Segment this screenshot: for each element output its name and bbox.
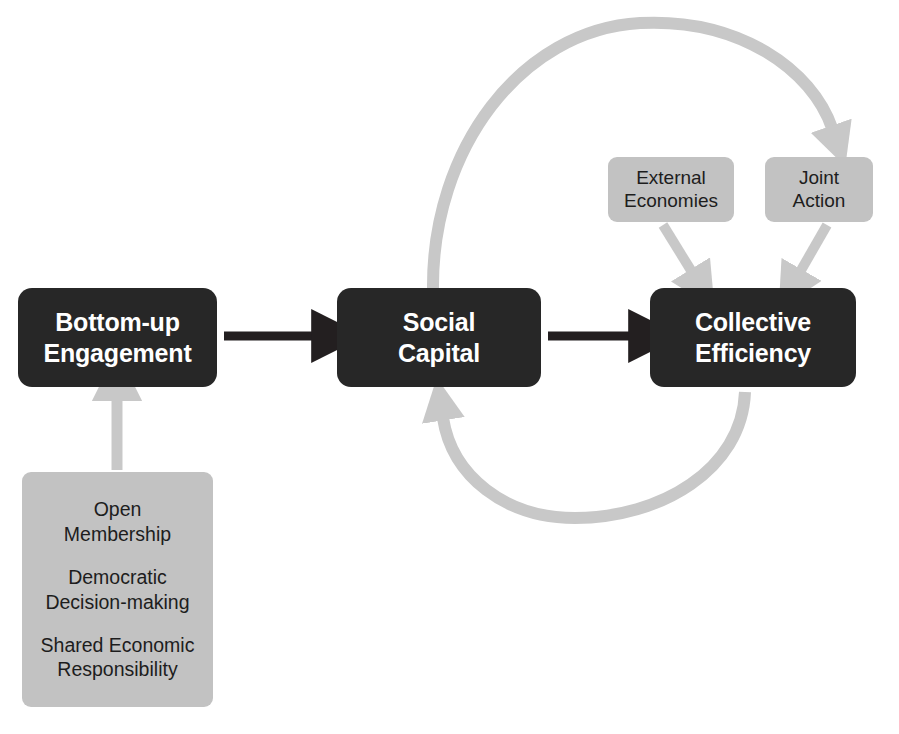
node-social-capital-line2: Capital xyxy=(398,339,480,367)
node-social-capital[interactable]: Social Capital xyxy=(337,288,541,387)
node-bottom-up-engagement-line1: Bottom-up xyxy=(55,308,180,336)
node-social-capital-label: Social Capital xyxy=(398,307,480,368)
node-social-capital-line1: Social xyxy=(403,308,475,336)
principle-democratic-decision-making: Democratic Decision-making xyxy=(45,565,189,614)
principle-shared-economic-responsibility-line2: Responsibility xyxy=(57,658,177,680)
node-joint-action-label: Joint Action xyxy=(793,167,846,213)
node-collective-efficiency-line1: Collective xyxy=(695,308,811,336)
principle-democratic-decision-making-line2: Decision-making xyxy=(45,591,189,613)
node-collective-efficiency[interactable]: Collective Efficiency xyxy=(650,288,856,387)
diagram-canvas: Bottom-up Engagement Social Capital Coll… xyxy=(0,0,899,734)
node-joint-action-line1: Joint xyxy=(799,167,839,188)
principle-open-membership-line1: Open xyxy=(94,498,142,520)
principle-shared-economic-responsibility: Shared Economic Responsibility xyxy=(41,633,195,682)
node-bottom-up-engagement[interactable]: Bottom-up Engagement xyxy=(18,288,217,387)
node-joint-action[interactable]: Joint Action xyxy=(765,157,873,222)
node-bottom-up-engagement-line2: Engagement xyxy=(43,339,191,367)
principle-open-membership: Open Membership xyxy=(64,497,171,546)
node-external-economies-line2: Economies xyxy=(624,190,718,211)
node-cooperative-principles[interactable]: Open Membership Democratic Decision-maki… xyxy=(22,472,213,707)
node-joint-action-line2: Action xyxy=(793,190,846,211)
node-bottom-up-engagement-label: Bottom-up Engagement xyxy=(43,307,191,368)
node-collective-efficiency-line2: Efficiency xyxy=(695,339,811,367)
principle-democratic-decision-making-line1: Democratic xyxy=(68,566,167,588)
principle-shared-economic-responsibility-line1: Shared Economic xyxy=(41,634,195,656)
node-external-economies[interactable]: External Economies xyxy=(608,157,734,222)
node-collective-efficiency-label: Collective Efficiency xyxy=(695,307,811,368)
principle-open-membership-line2: Membership xyxy=(64,523,171,545)
node-external-economies-label: External Economies xyxy=(624,167,718,213)
node-external-economies-line1: External xyxy=(636,167,706,188)
